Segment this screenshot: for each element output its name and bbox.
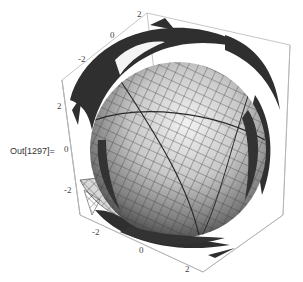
- svg-text:-2: -2: [78, 54, 86, 64]
- svg-text:2: 2: [185, 264, 190, 274]
- svg-text:0: 0: [139, 245, 144, 255]
- 3d-graphics-plot[interactable]: -2 0 2 2 0 -2 -2 0 2: [0, 0, 303, 282]
- axis-ticks-left: 2 0 -2: [57, 101, 72, 195]
- svg-text:0: 0: [110, 30, 115, 40]
- svg-text:-2: -2: [64, 185, 72, 195]
- svg-text:-2: -2: [92, 227, 100, 237]
- svg-text:0: 0: [64, 144, 69, 154]
- svg-text:2: 2: [137, 9, 142, 19]
- svg-text:2: 2: [57, 101, 62, 111]
